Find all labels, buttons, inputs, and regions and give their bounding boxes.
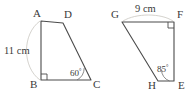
side-measure-ab: 11 cm bbox=[4, 45, 30, 56]
vertex-label-a: A bbox=[33, 7, 41, 19]
side-measure-gf: 9 cm bbox=[135, 3, 156, 14]
vertex-label-h: H bbox=[148, 79, 156, 91]
vertex-label-d: D bbox=[64, 8, 72, 20]
geometry-figure-canvas: A D C B 11 cm 60° G F E H 9 cm 85° bbox=[0, 0, 190, 96]
vertex-label-b: B bbox=[30, 78, 37, 90]
vertex-label-e: E bbox=[178, 79, 185, 91]
vertex-label-c: C bbox=[93, 78, 100, 90]
vertex-label-f: F bbox=[177, 8, 183, 20]
vertex-label-g: G bbox=[111, 8, 119, 20]
